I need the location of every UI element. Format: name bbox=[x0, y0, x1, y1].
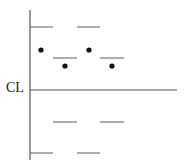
data-point bbox=[62, 63, 67, 68]
control-chart bbox=[0, 0, 186, 164]
data-point bbox=[109, 63, 114, 68]
data-point bbox=[38, 47, 43, 52]
data-point bbox=[86, 47, 91, 52]
